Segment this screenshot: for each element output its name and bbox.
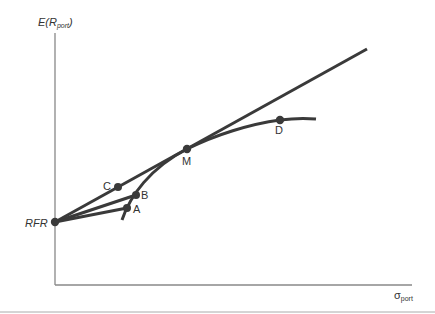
- label-m: M: [182, 155, 191, 167]
- point-a: [123, 204, 131, 212]
- label-rfr: RFR: [25, 217, 48, 229]
- x-axis-label: σport: [394, 289, 413, 303]
- label-c: C: [103, 180, 111, 192]
- point-m: [183, 145, 191, 153]
- point-c: [114, 183, 122, 191]
- label-b: B: [141, 189, 148, 201]
- label-d: D: [275, 124, 283, 136]
- label-a: A: [133, 203, 141, 215]
- point-b: [132, 191, 140, 199]
- capital-market-line-diagram: RFR A B C M D E(Rport) σport: [0, 0, 435, 314]
- capital-market-line: [55, 49, 367, 222]
- point-rfr: [51, 218, 59, 226]
- y-axis-label: E(Rport): [38, 16, 73, 30]
- point-d: [276, 116, 284, 124]
